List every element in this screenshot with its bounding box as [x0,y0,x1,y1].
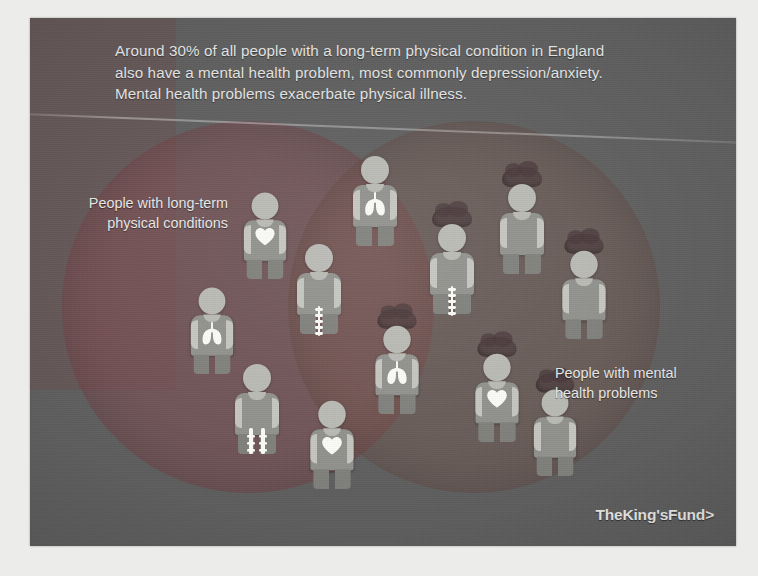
person-head [305,244,333,272]
person-spine-mid-center [292,228,346,332]
person-head [383,326,410,353]
person-head [508,184,536,212]
slide-headline: Around 30% of all people with a long-ter… [115,40,675,105]
person-torso [562,279,605,320]
person-heart-bottom-left [306,385,359,487]
person-brain-heart-right [471,338,524,440]
person-legs [194,355,230,374]
person-head [483,354,510,381]
person-legs [537,457,573,476]
venn-label-physical-conditions: People with long-term physical condition… [30,193,228,233]
venn-label-mental-line-2: health problems [555,383,730,403]
heart-icon [486,389,508,409]
person-legs [565,319,602,339]
venn-label-physical-line-1: People with long-term [30,193,228,213]
heart-icon [254,227,275,246]
person-legs [247,260,283,279]
headline-line-3: Mental health problems exacerbate physic… [115,83,675,105]
person-legs [378,394,415,414]
person-brain-lungs-center [371,310,424,412]
person-torso [534,417,576,457]
spine-icon [314,306,324,336]
person-head [318,401,345,428]
person-head [199,288,226,315]
pelvis-icon [245,428,269,454]
person-legs [313,469,350,489]
person-legs [503,254,541,274]
presentation-slide: Around 30% of all people with a long-ter… [30,18,736,546]
person-legs [478,422,515,442]
person-torso [500,213,544,255]
lungs-icon [200,322,225,347]
person-heart-upper-left [239,177,291,277]
person-lungs-top-center [348,140,402,244]
venn-label-mental-line-1: People with mental [555,363,730,383]
kings-fund-logo: TheKing'sFund> [596,506,714,524]
lungs-icon [384,361,409,386]
person-legs [356,226,394,246]
venn-label-mental-health: People with mental health problems [555,363,730,403]
spine-icon [447,286,457,316]
person-head [243,364,271,392]
person-brain-upper-right [495,168,549,272]
headline-line-1: Around 30% of all people with a long-ter… [115,40,675,62]
person-brain-spine-center [425,208,479,312]
person-head [252,193,279,220]
person-head [361,156,389,184]
headline-line-2: also have a mental health problem, most … [115,62,675,84]
lungs-icon [362,192,388,218]
venn-label-physical-line-2: physical conditions [30,213,228,233]
person-head [438,224,466,252]
screenshot-stage: Around 30% of all people with a long-ter… [0,0,758,576]
person-pelvis-lower-left [230,348,284,452]
person-head [570,251,597,278]
heart-icon [321,436,343,456]
person-brain-far-right [558,235,611,337]
